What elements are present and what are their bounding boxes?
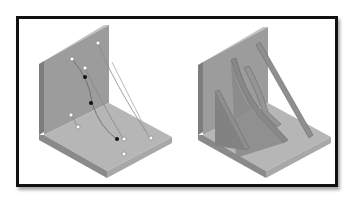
left-bracket [39, 25, 172, 178]
bracket-diagrams [0, 0, 354, 203]
right-bracket [198, 27, 331, 178]
